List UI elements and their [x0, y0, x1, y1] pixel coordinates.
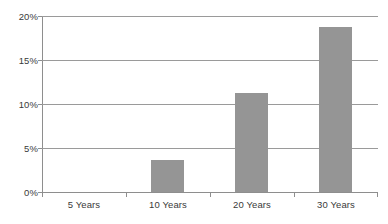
bar-10-years[interactable]: [151, 160, 184, 192]
bar-series: [42, 16, 378, 192]
x-axis-tick-start: [42, 192, 43, 197]
y-axis-label-20: 20%: [4, 12, 38, 22]
x-axis-tick-1: [126, 192, 127, 197]
x-axis-label-30-years: 30 Years: [294, 200, 378, 210]
y-axis-labels: 20% 15% 10% 5% 0%: [0, 0, 38, 224]
bar-30-years[interactable]: [319, 27, 352, 192]
x-axis-label-20-years: 20 Years: [210, 200, 294, 210]
y-axis-label-15: 15%: [4, 56, 38, 66]
bar-20-years[interactable]: [235, 93, 268, 192]
y-axis-label-0: 0%: [4, 188, 38, 198]
x-axis-tick-2: [210, 192, 211, 197]
bar-slot-10-years: [126, 16, 210, 192]
x-axis-labels: 5 Years 10 Years 20 Years 30 Years: [42, 200, 378, 220]
bar-slot-20-years: [210, 16, 294, 192]
x-axis-label-10-years: 10 Years: [126, 200, 210, 210]
bar-chart: 20% 15% 10% 5% 0%: [0, 0, 388, 224]
x-axis-tick-end: [377, 192, 378, 197]
y-axis-label-10: 10%: [4, 100, 38, 110]
y-axis-label-5: 5%: [4, 144, 38, 154]
x-axis-label-5-years: 5 Years: [42, 200, 126, 210]
bar-slot-5-years: [42, 16, 126, 192]
x-axis-tick-3: [294, 192, 295, 197]
bar-slot-30-years: [294, 16, 378, 192]
